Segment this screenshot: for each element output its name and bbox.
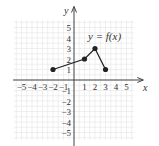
x-tick-label: −3 [38,82,48,92]
x-tick-label: −4 [27,82,37,92]
x-tick-label: 4 [114,82,119,92]
x-tick-label: −2 [48,82,58,92]
y-tick-label: 1 [67,65,72,75]
data-point [82,56,87,61]
data-point [50,67,55,72]
x-tick-label: 1 [82,82,87,92]
x-tick-label: 2 [93,82,98,92]
y-tick-label: −5 [61,128,71,138]
y-tick-label: 3 [67,44,72,54]
y-tick-label: 2 [67,55,72,65]
y-axis-label: y [63,5,69,16]
y-tick-label: 5 [67,23,72,33]
y-tick-label: −4 [61,118,71,128]
function-graph: −5−4−3−2−11234554321−1−2−3−4−5 y = f(x) … [0,0,159,146]
data-point [103,67,108,72]
plot-area: −5−4−3−2−11234554321−1−2−3−4−5 y = f(x) … [0,0,159,146]
y-tick-label: −1 [61,86,71,96]
x-tick-label: 3 [103,82,108,92]
x-tick-label: −5 [17,82,27,92]
x-tick-label: 5 [124,82,129,92]
x-axis-label: x [142,82,148,93]
data-point [92,46,97,51]
function-label: y = f(x) [87,30,121,43]
y-tick-label: 4 [67,34,72,44]
y-tick-label: −2 [61,97,71,107]
y-tick-label: −3 [61,107,71,117]
